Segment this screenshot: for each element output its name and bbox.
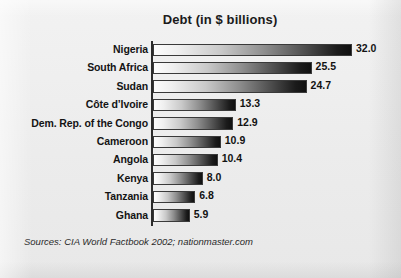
bar-fill — [153, 154, 218, 167]
bar-row: Côte d’Ivoire13.3 — [0, 96, 401, 114]
category-label: Côte d’Ivoire — [86, 98, 148, 110]
bar-fill — [153, 117, 233, 130]
bar-row: Sudan24.7 — [0, 78, 401, 96]
bar — [153, 191, 195, 204]
bar-value-label: 25.5 — [316, 60, 336, 72]
bar-row: Cameroon10.9 — [0, 133, 401, 151]
bar — [153, 136, 221, 149]
bar — [153, 117, 233, 130]
bar-fill — [153, 136, 221, 149]
bar — [153, 172, 203, 185]
chart-page: Debt (in $ billions) Nigeria32.0South Af… — [0, 0, 401, 278]
bar-fill — [153, 209, 190, 222]
bar-fill — [153, 172, 203, 185]
bar — [153, 44, 352, 57]
bar-fill — [153, 62, 312, 75]
bar-row: Dem. Rep. of the Congo12.9 — [0, 115, 401, 133]
bar-value-label: 24.7 — [311, 79, 331, 91]
category-label: Tanzania — [105, 190, 148, 202]
bar-value-label: 12.9 — [237, 116, 257, 128]
bar-row: Kenya8.0 — [0, 170, 401, 188]
bar-fill — [153, 99, 236, 112]
plot-area: Nigeria32.0South Africa25.5Sudan24.7Côte… — [0, 41, 401, 227]
bar-row: Ghana5.9 — [0, 207, 401, 225]
category-label: Sudan — [116, 80, 148, 92]
bar-value-label: 8.0 — [207, 171, 222, 183]
category-label: Cameroon — [97, 135, 148, 147]
category-label: Kenya — [117, 172, 148, 184]
category-label: Nigeria — [113, 43, 148, 55]
bar-row: Nigeria32.0 — [0, 41, 401, 59]
source-secondary: nationmaster.com — [175, 236, 253, 247]
category-label: Ghana — [116, 209, 148, 221]
bar-value-label: 10.4 — [222, 152, 242, 164]
bar — [153, 62, 312, 75]
category-label: South Africa — [87, 61, 148, 73]
bar — [153, 209, 190, 222]
bar-value-label: 6.8 — [199, 189, 214, 201]
category-label: Dem. Rep. of the Congo — [31, 117, 148, 129]
bar-fill — [153, 80, 307, 93]
bar-value-label: 10.9 — [225, 134, 245, 146]
bar-value-label: 13.3 — [240, 97, 260, 109]
chart-title: Debt (in $ billions) — [120, 12, 320, 27]
category-label: Angola — [113, 153, 148, 165]
bar — [153, 154, 218, 167]
bar-fill — [153, 191, 195, 204]
bar — [153, 99, 236, 112]
bar-row: Angola10.4 — [0, 151, 401, 169]
bar-value-label: 5.9 — [194, 208, 209, 220]
bar-fill — [153, 44, 352, 57]
bar-value-label: 32.0 — [356, 42, 376, 54]
bar-row: Tanzania6.8 — [0, 188, 401, 206]
bar — [153, 80, 307, 93]
bar-row: South Africa25.5 — [0, 59, 401, 77]
source-note: Sources: CIA World Factbook 2002; nation… — [24, 236, 253, 247]
source-primary: Sources: CIA World Factbook 2002; — [24, 236, 175, 247]
